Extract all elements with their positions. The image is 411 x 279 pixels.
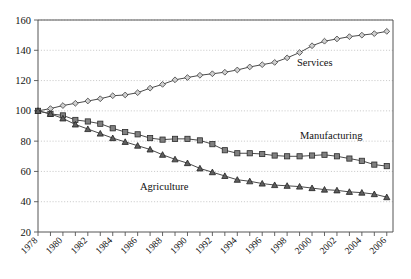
y-axis-label: 160 bbox=[15, 15, 31, 26]
series-annotations: ServicesManufacturingAgriculture bbox=[140, 57, 363, 192]
data-point-marker bbox=[384, 164, 389, 169]
data-point-marker bbox=[197, 138, 202, 143]
data-point-marker bbox=[209, 71, 215, 77]
y-axis-label: 40 bbox=[21, 196, 32, 207]
data-point-marker bbox=[309, 43, 315, 49]
data-point-marker bbox=[160, 81, 166, 87]
x-axis-label: 1986 bbox=[119, 235, 140, 256]
axes bbox=[38, 20, 393, 232]
data-point-marker bbox=[260, 151, 265, 156]
data-point-marker bbox=[135, 90, 141, 96]
x-axis-label: 2002 bbox=[318, 235, 339, 256]
data-point-marker bbox=[347, 156, 352, 161]
data-point-marker bbox=[159, 152, 165, 158]
agriculture-annotation: Agriculture bbox=[140, 181, 189, 192]
data-point-marker bbox=[122, 92, 128, 98]
data-point-marker bbox=[334, 36, 340, 42]
data-point-marker bbox=[72, 100, 78, 106]
data-point-marker bbox=[110, 93, 116, 99]
data-point-marker bbox=[285, 154, 290, 159]
manufacturing-annotation: Manufacturing bbox=[300, 130, 363, 141]
data-point-marker bbox=[210, 142, 215, 147]
y-axis-ticks bbox=[34, 20, 38, 232]
data-point-marker bbox=[197, 165, 203, 171]
y-axis-label: 100 bbox=[15, 105, 31, 116]
data-point-marker bbox=[185, 75, 191, 81]
data-point-marker bbox=[371, 31, 377, 37]
data-point-marker bbox=[297, 50, 303, 56]
data-point-marker bbox=[60, 103, 66, 109]
x-axis-labels: 1978198019821984198619881990199219941996… bbox=[19, 235, 388, 256]
data-point-marker bbox=[172, 136, 177, 141]
data-point-marker bbox=[98, 121, 103, 126]
x-axis-label: 1990 bbox=[168, 235, 189, 256]
x-axis-label: 1992 bbox=[193, 235, 214, 256]
data-point-marker bbox=[309, 153, 314, 158]
x-axis-label: 1984 bbox=[94, 235, 115, 256]
data-point-marker bbox=[372, 162, 377, 167]
data-point-marker bbox=[97, 96, 103, 102]
y-axis-label: 80 bbox=[21, 136, 32, 147]
data-point-marker bbox=[172, 77, 178, 83]
data-point-marker bbox=[147, 85, 153, 91]
series-services bbox=[35, 28, 390, 113]
x-axis-label: 2000 bbox=[293, 235, 314, 256]
data-point-marker bbox=[85, 119, 90, 124]
data-series bbox=[35, 28, 390, 199]
x-axis-label: 1994 bbox=[218, 235, 239, 256]
x-axis-label: 1998 bbox=[268, 235, 289, 256]
data-point-marker bbox=[284, 55, 290, 61]
data-point-marker bbox=[247, 151, 252, 156]
x-axis-label: 1980 bbox=[44, 235, 65, 256]
x-axis-label: 1978 bbox=[19, 235, 40, 256]
data-point-marker bbox=[110, 126, 115, 131]
data-point-marker bbox=[259, 62, 265, 68]
data-point-marker bbox=[272, 153, 277, 158]
services-annotation: Services bbox=[297, 57, 333, 68]
y-axis-label: 140 bbox=[15, 45, 31, 56]
line-chart: 20406080100120140160 1978198019821984198… bbox=[0, 0, 411, 279]
data-point-marker bbox=[347, 34, 353, 40]
data-point-marker bbox=[359, 32, 365, 38]
y-axis-labels: 20406080100120140160 bbox=[15, 15, 31, 238]
data-point-marker bbox=[297, 154, 302, 159]
data-point-marker bbox=[123, 129, 128, 134]
data-point-marker bbox=[222, 148, 227, 153]
chart-canvas: 20406080100120140160 1978198019821984198… bbox=[0, 0, 411, 279]
data-point-marker bbox=[322, 152, 327, 157]
data-point-marker bbox=[384, 28, 390, 34]
data-point-marker bbox=[234, 67, 240, 73]
data-point-marker bbox=[247, 64, 253, 70]
x-axis-label: 1988 bbox=[143, 235, 164, 256]
x-axis-label: 2006 bbox=[368, 235, 389, 256]
data-point-marker bbox=[135, 132, 140, 137]
x-axis-ticks bbox=[38, 232, 387, 236]
data-point-marker bbox=[322, 38, 328, 44]
data-point-marker bbox=[197, 72, 203, 78]
y-axis-label: 60 bbox=[21, 166, 32, 177]
data-point-marker bbox=[359, 158, 364, 163]
data-point-marker bbox=[272, 60, 278, 66]
y-axis-label: 20 bbox=[21, 227, 32, 238]
data-point-marker bbox=[222, 69, 228, 75]
data-point-marker bbox=[334, 154, 339, 159]
data-point-marker bbox=[85, 98, 91, 104]
data-point-marker bbox=[160, 137, 165, 142]
data-point-marker bbox=[185, 136, 190, 141]
x-axis-label: 1996 bbox=[243, 235, 264, 256]
y-axis-label: 120 bbox=[15, 75, 31, 86]
data-point-marker bbox=[235, 151, 240, 156]
data-point-marker bbox=[148, 136, 153, 141]
x-axis-label: 1982 bbox=[69, 235, 90, 256]
x-axis-label: 2004 bbox=[343, 235, 364, 256]
